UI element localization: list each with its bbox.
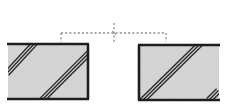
right-section-block (138, 40, 220, 104)
section-diagram (0, 0, 229, 111)
left-section-block (5, 41, 92, 103)
reference-line (61, 23, 166, 43)
